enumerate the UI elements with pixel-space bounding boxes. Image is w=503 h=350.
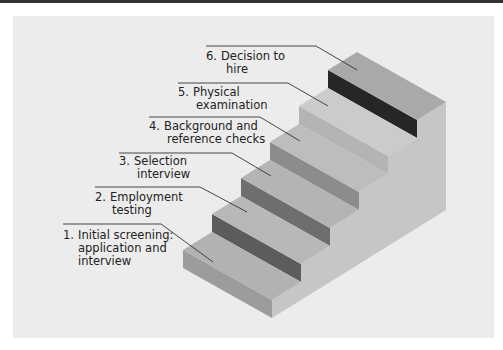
step-label-6: 6.Decision to hire [206, 50, 285, 76]
step-label-4: 4.Background and reference checks [149, 120, 265, 146]
step-label-3: 3.Selection interview [119, 155, 190, 181]
step-label-1: 1.Initial screening: application and int… [63, 229, 173, 268]
step-label-5: 5.Physical examination [178, 86, 268, 112]
step-label-2: 2.Employment testing [95, 191, 183, 217]
